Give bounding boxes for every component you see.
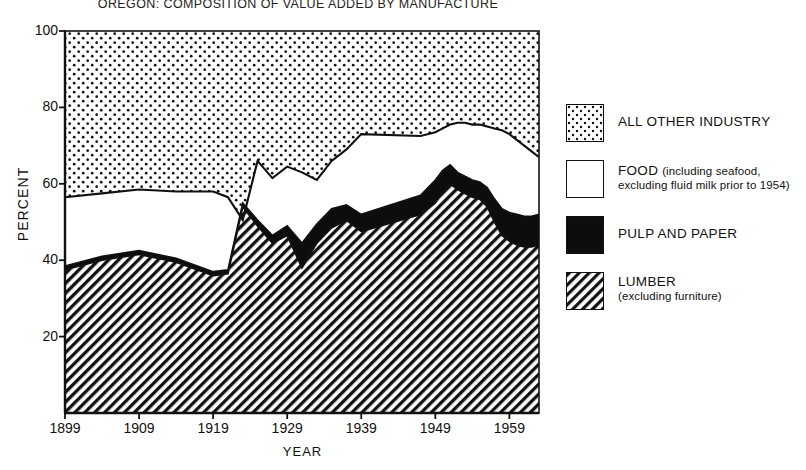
legend-text-main: FOOD (618, 163, 658, 178)
x-axis-tick-labels: 1899190919191929193919491959 (0, 420, 806, 440)
legend-text-sub: (excluding furniture) (618, 290, 722, 302)
legend-label-all-other-industry: ALL OTHER INDUSTRY (618, 104, 770, 129)
legend-item-pulp-and-paper[interactable]: PULP AND PAPER (566, 216, 806, 254)
x-tick-label: 1939 (331, 420, 391, 436)
legend-text-main: LUMBER (618, 274, 676, 289)
x-axis-title: YEAR (65, 444, 540, 459)
legend-text-sub: (including seafood, (662, 165, 760, 177)
x-tick-label: 1959 (479, 420, 539, 436)
legend-swatch-white-icon (566, 160, 604, 198)
legend-text-main: PULP AND PAPER (618, 226, 737, 241)
y-tick-label: 40 (24, 251, 58, 267)
legend-swatch-black-icon (566, 216, 604, 254)
legend-item-all-other-industry[interactable]: ALL OTHER INDUSTRY (566, 104, 806, 142)
x-tick-label: 1899 (35, 420, 95, 436)
x-tick-label: 1949 (405, 420, 465, 436)
legend-text-main: ALL OTHER INDUSTRY (618, 114, 770, 129)
legend-label-food: FOOD (including seafood, excluding fluid… (618, 160, 790, 192)
y-tick-label: 80 (24, 98, 58, 114)
y-tick-label: 100 (24, 22, 58, 38)
legend-item-food[interactable]: FOOD (including seafood, excluding fluid… (566, 160, 806, 198)
x-tick-label: 1929 (257, 420, 317, 436)
chart-legend: ALL OTHER INDUSTRY FOOD (including seafo… (566, 104, 806, 328)
legend-label-pulp-and-paper: PULP AND PAPER (618, 216, 737, 241)
y-axis-title: PERCENT (15, 159, 31, 249)
legend-text-sub2: excluding fluid milk prior to 1954) (618, 179, 790, 191)
x-tick-label: 1909 (109, 420, 169, 436)
legend-swatch-hatched-icon (566, 272, 604, 310)
legend-swatch-dotted-icon (566, 104, 604, 142)
legend-item-lumber[interactable]: LUMBER (excluding furniture) (566, 272, 806, 310)
y-tick-label: 20 (24, 328, 58, 344)
legend-label-lumber: LUMBER (excluding furniture) (618, 272, 722, 303)
x-tick-label: 1919 (183, 420, 243, 436)
